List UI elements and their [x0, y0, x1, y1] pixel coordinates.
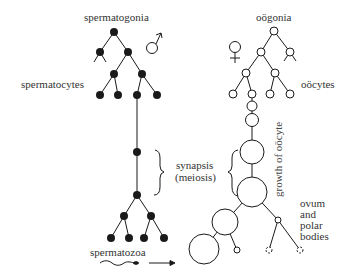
male-symbol-icon — [147, 33, 163, 54]
brace-left-icon — [154, 150, 164, 195]
male-cells — [96, 28, 168, 242]
label-oocytes: oöcytes — [301, 79, 335, 90]
label-synapsis: synapsis — [176, 160, 213, 171]
female-symbol-icon — [230, 42, 241, 64]
label-spermatogonia: spermatogonia — [84, 12, 149, 23]
gametogenesis-diagram: spermatogonia spermatocytes spermatozoa … — [0, 0, 352, 277]
label-ovum-4: bodies — [300, 231, 329, 242]
label-spermatozoa: spermatozoa — [90, 247, 146, 258]
label-meiosis: (meiosis) — [175, 172, 216, 183]
degenerating-polar-bodies — [266, 247, 303, 253]
label-oogonia: oögonia — [256, 12, 291, 23]
arrow-icon — [149, 261, 175, 266]
label-spermatocytes: spermatocytes — [21, 79, 84, 90]
spermatozoon-icon — [100, 261, 139, 266]
label-growth-of-oocyte: growth of oöcyte — [272, 122, 284, 197]
brace-right-icon — [228, 150, 238, 196]
male-lineage-lines — [94, 32, 164, 238]
